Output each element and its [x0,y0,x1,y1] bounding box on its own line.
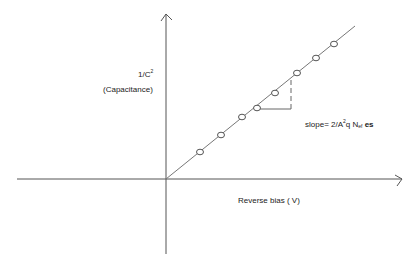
slope-annotation: slope= 2/A2q Nef es [305,119,374,129]
data-point [197,149,204,155]
data-point [254,105,261,111]
slope-mid: q N [346,120,358,129]
data-point [313,55,320,61]
y-axis-label-line2: (Capacitance) [103,86,153,94]
data-point [272,90,279,96]
x-axis-label: Reverse bias ( V) [238,197,300,205]
x-axis-arrow-icon [395,175,402,186]
y-label-text: 1/C [138,70,150,79]
data-point [331,41,338,47]
fit-line [166,26,355,179]
data-point [294,70,301,76]
y-label-sup: 2 [150,68,153,74]
data-point [239,114,246,120]
data-point [218,132,225,138]
y-label-unit: (Capacitance) [103,85,153,94]
y-axis-label-line1: 1/C2 [138,69,153,79]
slope-prefix: slope= 2/A [305,120,343,129]
slope-suffix: es [365,120,374,129]
x-label-text: Reverse bias ( V) [238,196,300,205]
slope-sub: ef [358,123,362,129]
cv-plot [0,0,417,268]
